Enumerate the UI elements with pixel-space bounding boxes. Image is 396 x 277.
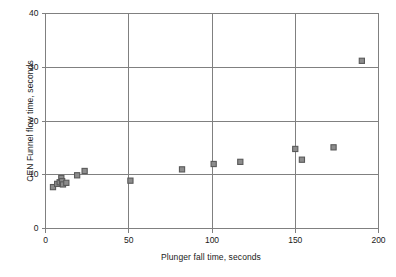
- y-tick-label: 40: [15, 8, 39, 18]
- scatter-chart: Plunger fall time, seconds CEN Funnel fl…: [0, 0, 396, 277]
- y-tick-label: 10: [15, 169, 39, 179]
- gridlines: [46, 14, 379, 229]
- data-point: [179, 167, 184, 172]
- data-series-mix-data: [50, 58, 364, 190]
- tick-marks: [42, 14, 379, 233]
- x-tick-label: 0: [31, 235, 61, 245]
- x-axis-title: Plunger fall time, seconds: [0, 252, 396, 262]
- y-tick-label: 30: [15, 62, 39, 72]
- data-point: [293, 146, 298, 151]
- data-point: [238, 159, 243, 164]
- data-point: [82, 168, 87, 173]
- data-point: [331, 145, 336, 150]
- y-tick-label: 0: [15, 223, 39, 233]
- data-point: [359, 58, 364, 63]
- data-point: [299, 157, 304, 162]
- data-point: [128, 178, 133, 183]
- data-point: [75, 173, 80, 178]
- data-point: [64, 180, 69, 185]
- x-tick-label: 150: [280, 235, 310, 245]
- x-tick-label: 200: [364, 235, 394, 245]
- data-point: [211, 161, 216, 166]
- x-tick-label: 50: [114, 235, 144, 245]
- x-tick-label: 100: [197, 235, 227, 245]
- y-tick-label: 20: [15, 116, 39, 126]
